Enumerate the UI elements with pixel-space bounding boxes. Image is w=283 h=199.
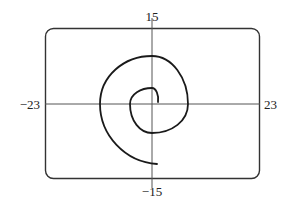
spiral-curve	[100, 56, 188, 164]
y-max-label: 15	[146, 9, 159, 24]
x-min-label: −23	[20, 97, 40, 112]
x-max-label: 23	[264, 97, 277, 112]
chart-plot: 15 −15 −23 23	[0, 0, 283, 199]
y-min-label: −15	[142, 184, 162, 199]
